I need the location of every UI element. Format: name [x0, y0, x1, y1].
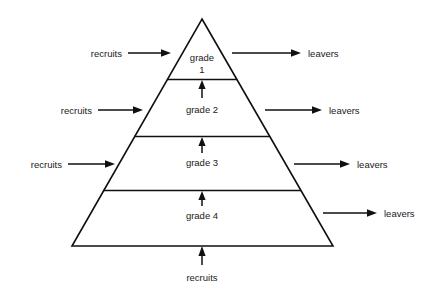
leavers-arrow-grade-3	[294, 160, 350, 168]
grade-1-label-line1: grade	[190, 52, 214, 63]
recruits-arrow-grade-3	[68, 160, 115, 168]
leavers-arrow-grade-4	[323, 209, 377, 217]
recruits-label-grade-4: recruits	[186, 272, 217, 283]
pyramid-diagram: grade 1 grade 2 grade 3 grade 4 recruits	[0, 0, 436, 296]
recruits-arrow-grade-2	[98, 106, 143, 114]
recruits-label-grade-1: recruits	[91, 48, 122, 59]
grade-4-label: grade 4	[186, 210, 218, 221]
leavers-label-grade-3: leavers	[357, 159, 388, 170]
grade-1-label-line2: 1	[199, 64, 204, 75]
grade-2-label: grade 2	[186, 104, 218, 115]
recruits-arrow-grade-4	[198, 246, 205, 265]
recruits-label-grade-2: recruits	[61, 105, 92, 116]
grade-3-label: grade 3	[186, 157, 218, 168]
leavers-label-grade-1: leavers	[308, 48, 339, 59]
leavers-label-grade-4: leavers	[384, 208, 415, 219]
leavers-label-grade-2: leavers	[329, 105, 360, 116]
leavers-arrow-grade-1	[232, 49, 301, 57]
recruits-label-grade-3: recruits	[31, 159, 62, 170]
diagram-canvas: grade 1 grade 2 grade 3 grade 4 recruits	[0, 0, 436, 296]
leavers-arrow-grade-2	[265, 106, 322, 114]
recruits-arrow-grade-1	[128, 49, 171, 57]
